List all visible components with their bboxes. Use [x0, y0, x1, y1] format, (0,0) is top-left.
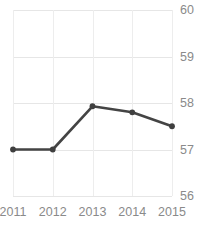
gridline-y-56 — [13, 196, 172, 197]
y-tick-label-59: 59 — [180, 51, 204, 63]
y-tick-label-58: 58 — [180, 97, 204, 109]
line-chart: Freedom Trend 5657585960 201120122013201… — [0, 0, 204, 225]
data-point-2015 — [169, 123, 175, 129]
plot-area — [13, 10, 172, 196]
data-point-2012 — [50, 147, 56, 153]
y-tick-label-60: 60 — [180, 4, 204, 16]
data-point-2014 — [129, 109, 135, 115]
x-tick-label-2013: 2013 — [73, 205, 113, 219]
x-tick-label-2012: 2012 — [33, 205, 73, 219]
y-tick-label-57: 57 — [180, 144, 204, 156]
data-point-2011 — [10, 147, 16, 153]
series-line — [13, 106, 172, 149]
series-markers — [10, 103, 175, 152]
x-tick-label-2015: 2015 — [152, 205, 192, 219]
chart-title: Freedom Trend — [0, 0, 180, 3]
gridline-x-2015 — [172, 10, 173, 196]
x-tick-label-2011: 2011 — [0, 205, 33, 219]
x-tick-label-2014: 2014 — [112, 205, 152, 219]
data-point-2013 — [90, 103, 96, 109]
series-freedom — [13, 10, 172, 196]
y-tick-label-56: 56 — [180, 190, 204, 202]
